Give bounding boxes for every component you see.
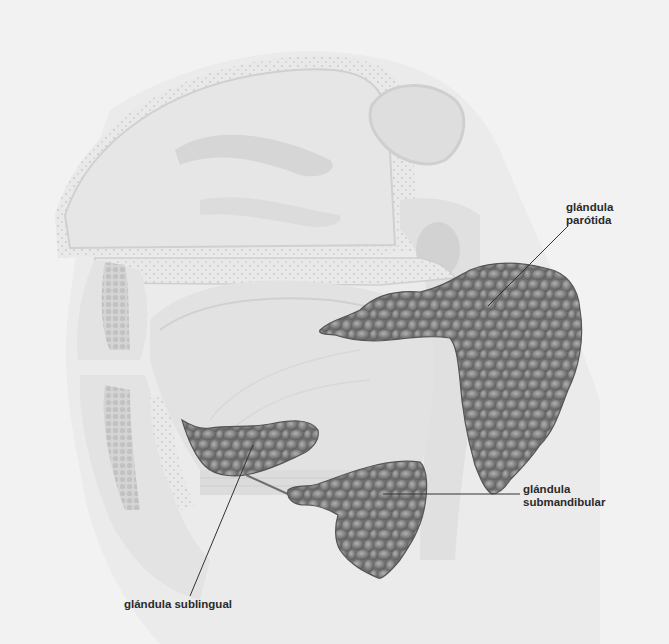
label-parotid-gland: glándula parótida <box>566 201 613 227</box>
anatomy-illustration <box>0 0 669 644</box>
label-submandibular-gland: glándula submandibular <box>523 483 605 509</box>
label-submandibular-line1: glándula <box>523 483 605 496</box>
label-submandibular-line2: submandibular <box>523 496 605 509</box>
label-parotid-line2: parótida <box>566 214 613 227</box>
label-sublingual-gland: glándula sublingual <box>124 598 232 611</box>
label-sublingual-line1: glándula sublingual <box>124 598 232 611</box>
nasal-cavity <box>55 56 420 258</box>
label-parotid-line1: glándula <box>566 201 613 214</box>
